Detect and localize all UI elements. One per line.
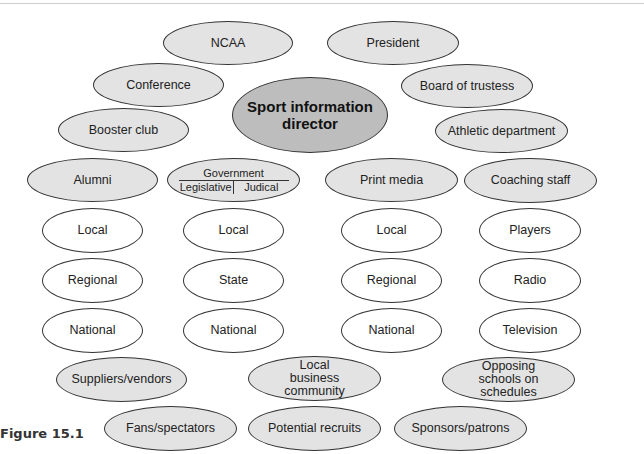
node-print-regional: Regional (341, 258, 442, 303)
node-government: Government Legislative Judical (167, 158, 300, 202)
node-board-of-trustees: Board of trustess (401, 64, 533, 108)
node-sponsors-patrons: Sponsors/patrons (394, 406, 527, 451)
node-government-national: National (183, 308, 284, 353)
government-title: Government (179, 167, 289, 181)
node-ncaa: NCAA (163, 21, 293, 65)
node-sport-information-director: Sport information director (232, 77, 388, 153)
node-print-media: Print media (325, 158, 458, 202)
node-alumni: Alumni (27, 158, 158, 202)
node-print-local: Local (341, 208, 442, 253)
node-radio: Radio (479, 258, 581, 303)
node-president: President (327, 21, 459, 65)
node-government-local: Local (183, 208, 284, 253)
node-local-business-community: Local business community (248, 356, 381, 401)
node-alumni-regional: Regional (42, 258, 143, 303)
node-print-national: National (341, 308, 442, 353)
node-players: Players (479, 208, 581, 253)
figure-caption: Figure 15.1 (0, 426, 84, 441)
node-potential-recruits: Potential recruits (248, 406, 381, 451)
node-fans-spectators: Fans/spectators (104, 406, 237, 451)
node-booster-club: Booster club (58, 108, 189, 152)
node-opposing-schools: Opposing schools on schedules (442, 357, 575, 402)
top-rule (0, 3, 644, 4)
node-government-state: State (183, 258, 284, 303)
node-suppliers-vendors: Suppliers/vendors (56, 357, 187, 402)
node-coaching-staff: Coaching staff (464, 158, 597, 203)
node-television: Television (479, 308, 581, 353)
node-conference: Conference (93, 63, 224, 107)
government-judicial: Judical (234, 181, 289, 194)
node-athletic-department: Athletic department (435, 109, 568, 153)
node-alumni-national: National (42, 308, 143, 353)
government-legislative: Legislative (179, 181, 235, 194)
node-alumni-local: Local (42, 208, 143, 253)
